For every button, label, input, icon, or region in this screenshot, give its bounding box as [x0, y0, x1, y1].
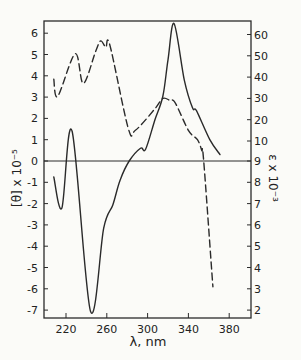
plot-border	[44, 21, 251, 318]
y-left-tick-label: -5	[27, 262, 38, 275]
y-left-tick-label: -1	[27, 176, 38, 189]
plot-frame	[44, 21, 251, 318]
series-layer	[54, 23, 220, 313]
y-left-tick-label: 2	[31, 112, 38, 125]
y-right-tick-label: 8	[254, 176, 261, 189]
y-right-tick-label: 7	[254, 198, 261, 211]
y-left-tick-label: 1	[31, 134, 38, 147]
cd-absorption-chart: 220260300340380 6543210-1-2-3-4-5-6-7 60…	[0, 0, 301, 360]
y-left-tick-label: 5	[31, 49, 38, 62]
x-tick-label: 380	[219, 323, 240, 336]
y-right-tick-label: 50	[254, 50, 268, 63]
y-right-tick-label: 60	[254, 29, 268, 42]
x-tick-label: 220	[56, 323, 77, 336]
y-right-tick-label: 3	[254, 283, 261, 296]
y-right-tick-label: 6	[254, 219, 261, 232]
absorption-curve-dashed	[54, 40, 213, 287]
y-right-tick-label: 30	[254, 92, 268, 105]
y-right-tick-label: 10	[254, 135, 268, 148]
y-left-tick-label: -4	[27, 240, 38, 253]
y-left-tick-label: -3	[27, 219, 38, 232]
y-axis-right-label: ε x 10⁻³	[266, 154, 280, 202]
y-left-tick-label: 4	[31, 70, 38, 83]
y-right-tick-label: 5	[254, 240, 261, 253]
x-tick-label: 340	[178, 323, 199, 336]
y-left-tick-label: 3	[31, 91, 38, 104]
y-right-tick-label: 2	[254, 304, 261, 317]
y-axis-right: 60504030201098765432	[247, 29, 268, 318]
y-left-tick-label: 6	[31, 27, 38, 40]
x-axis: 220260300340380	[56, 313, 240, 336]
y-axis-left-label: [θ] x 10⁻⁵	[10, 149, 24, 207]
y-left-tick-label: 0	[31, 155, 38, 168]
y-left-tick-label: -7	[27, 304, 38, 317]
y-left-tick-label: -6	[27, 283, 38, 296]
x-axis-label: λ, nm	[130, 334, 167, 349]
y-right-tick-label: 9	[254, 155, 261, 168]
y-left-tick-label: -2	[27, 198, 38, 211]
x-tick-label: 260	[96, 323, 117, 336]
y-right-tick-label: 20	[254, 114, 268, 127]
y-right-tick-label: 40	[254, 71, 268, 84]
y-right-tick-label: 4	[254, 262, 261, 275]
y-axis-left: 6543210-1-2-3-4-5-6-7	[27, 27, 48, 317]
